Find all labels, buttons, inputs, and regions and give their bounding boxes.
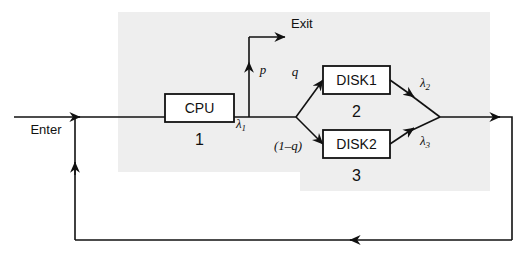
- diagram-canvas: Enter CPU 1 λ1 p Exit q: [0, 0, 524, 267]
- enter-label: Enter: [30, 122, 62, 137]
- node-cpu-label: CPU: [185, 100, 215, 116]
- node-cpu-number: 1: [195, 131, 204, 148]
- node-disk2[interactable]: DISK2: [323, 130, 390, 158]
- node-disk1[interactable]: DISK1: [323, 66, 390, 94]
- one-minus-q-label: (1–q): [274, 138, 302, 153]
- node-cpu[interactable]: CPU: [165, 94, 234, 122]
- exit-label: Exit: [291, 16, 313, 31]
- node-disk2-label: DISK2: [336, 136, 377, 152]
- node-disk2-number: 3: [352, 167, 361, 184]
- queueing-network-diagram: Enter CPU 1 λ1 p Exit q: [0, 0, 524, 267]
- node-disk1-label: DISK1: [336, 72, 377, 88]
- p-label: p: [259, 62, 267, 77]
- node-disk1-number: 2: [352, 103, 361, 120]
- q-label: q: [292, 64, 299, 79]
